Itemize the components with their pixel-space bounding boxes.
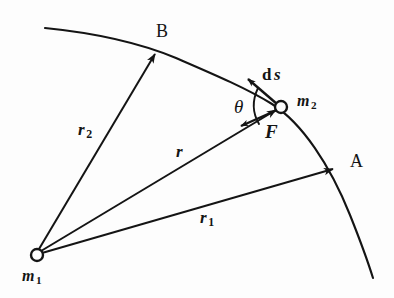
mass-1-symbol: m [22,267,34,284]
label-force: F [265,122,278,141]
label-vector-r: r [176,143,183,160]
diagram-canvas [0,0,394,298]
vector-r [41,110,276,251]
mass1-marker [31,249,43,261]
label-mass-1: m1 [22,268,42,286]
label-mass-2: m2 [297,93,317,111]
r1-symbol: r [200,208,207,227]
label-point-b: B [156,22,168,40]
ds-s-symbol: s [274,65,281,84]
mass-1-subscript: 1 [36,274,42,286]
mass-2-subscript: 2 [311,99,317,111]
ds-d-symbol: d [262,65,271,84]
r1-subscript: 1 [208,215,214,229]
label-point-a: A [350,152,363,170]
mass-2-symbol: m [297,92,309,109]
label-vector-r1: r1 [200,209,214,229]
r-symbol: r [176,142,183,161]
r2-symbol: r [78,120,85,139]
vector-r1 [42,169,333,253]
label-vector-ds: ds [262,66,281,83]
label-theta: θ [234,97,243,116]
r2-subscript: 2 [86,127,92,141]
mass2-marker [275,101,287,113]
label-vector-r2: r2 [78,121,92,141]
vector-r2 [39,54,155,249]
trajectory-arc [45,28,373,278]
physics-diagram: B A m1 m2 r2 r r1 ds F θ [0,0,394,298]
